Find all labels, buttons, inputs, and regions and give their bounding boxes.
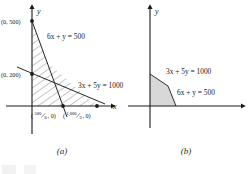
point-label-0-200: (0, 200) xyxy=(1,71,21,79)
svg-text:(: ( xyxy=(63,112,65,120)
y-axis-label-a: y xyxy=(36,7,41,16)
panel-b-plot: 3x + 5y = 1000 6x + y = 500 y xyxy=(124,0,248,150)
svg-text:(: ( xyxy=(31,112,33,120)
x-axis-label-a: x xyxy=(112,102,117,111)
panel-a: y x 6x + y = 500 3x + 5y = 1000 (0, 500)… xyxy=(0,0,124,174)
panel-a-plot: y x 6x + y = 500 3x + 5y = 1000 (0, 500)… xyxy=(0,0,124,150)
point-label-500-over-6: ( 500 6 , 0) xyxy=(31,111,56,120)
point-label-0-500: (0, 500) xyxy=(1,18,21,26)
panel-a-caption: (a) xyxy=(0,146,124,156)
equation-label-6x-plus-y-a: 6x + y = 500 xyxy=(47,32,85,41)
equation-label-3x-plus-5y-a: 3x + 5y = 1000 xyxy=(78,81,124,90)
equation-label-6x-plus-y-b: 6x + y = 500 xyxy=(177,88,215,97)
shaded-region-b xyxy=(150,74,176,106)
y-axis-label-b: y xyxy=(154,7,159,16)
frac-numerator-500: 500 xyxy=(35,111,42,116)
page-edge-artifact xyxy=(2,165,54,174)
vertex-0-200 xyxy=(30,72,34,76)
vertex-500-over-6 xyxy=(61,104,65,108)
svg-text:, 0): , 0) xyxy=(48,112,56,120)
figure-container: y x 6x + y = 500 3x + 5y = 1000 (0, 500)… xyxy=(0,0,248,174)
point-label-1000-over-3: ( 1,000 3 , 0) xyxy=(63,111,91,120)
vertex-1000-over-3 xyxy=(95,104,99,108)
equation-label-3x-plus-5y-b: 3x + 5y = 1000 xyxy=(166,67,212,76)
svg-text:, 0): , 0) xyxy=(82,112,90,120)
vertex-0-500 xyxy=(30,19,34,23)
panel-b: 3x + 5y = 1000 6x + y = 500 y (b) xyxy=(124,0,248,174)
frac-numerator-1000: 1,000 xyxy=(67,111,78,117)
panel-b-caption: (b) xyxy=(124,146,248,156)
